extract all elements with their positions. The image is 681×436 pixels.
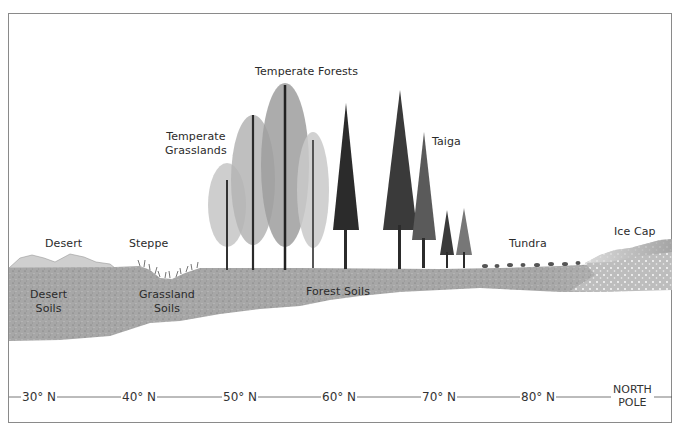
conifer-trees (333, 90, 472, 269)
deciduous-trees (208, 83, 329, 270)
label-desert: Desert (45, 237, 82, 251)
label-steppe: Steppe (129, 237, 168, 251)
label-tundra: Tundra (509, 237, 547, 251)
desert-mountains (9, 254, 115, 268)
label-grassland-soils: Grassland Soils (139, 288, 195, 316)
label-ice-cap: Ice Cap (614, 225, 656, 239)
label-forest-soils: Forest Soils (306, 285, 370, 299)
label-desert-soils: Desert Soils (30, 288, 67, 316)
lat-30: 30° N (21, 390, 57, 404)
lat-60: 60° N (321, 390, 357, 404)
lat-north-pole: NORTH POLE (611, 383, 654, 409)
lat-80: 80° N (520, 390, 556, 404)
lat-70: 70° N (421, 390, 457, 404)
lat-40: 40° N (121, 390, 157, 404)
label-taiga: Taiga (432, 135, 461, 149)
lat-50: 50° N (222, 390, 258, 404)
label-temperate-forests: Temperate Forests (255, 65, 358, 79)
label-temperate-grasslands: Temperate Grasslands (165, 130, 227, 158)
